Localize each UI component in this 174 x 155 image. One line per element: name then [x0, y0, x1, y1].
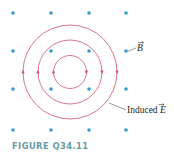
e-label-leader: [109, 103, 126, 110]
induced-e-label: Induced E: [127, 103, 166, 115]
b-symbol: B: [137, 43, 143, 53]
field-dot: [124, 87, 128, 91]
field-dot: [87, 49, 91, 53]
arrow-up-icon: [21, 70, 24, 74]
induced-field-diagram: B Induced E: [0, 0, 174, 155]
e-field-loop-inner: [54, 56, 87, 89]
arrow-down-icon: [100, 71, 103, 75]
e-field-loop-middle: [38, 40, 102, 104]
field-dot: [11, 49, 15, 53]
field-dot: [124, 49, 128, 53]
b-label-leader: [128, 48, 137, 52]
field-dot: [49, 49, 53, 53]
b-field-label: B: [137, 41, 144, 53]
field-dot: [87, 128, 91, 132]
arrow-up-icon: [52, 70, 55, 74]
field-dot: [49, 128, 53, 132]
arrow-down-icon: [85, 71, 88, 75]
field-dot: [11, 128, 15, 132]
field-dot: [11, 87, 15, 91]
arrow-up-icon: [36, 70, 39, 74]
field-dot: [87, 11, 91, 15]
field-dot: [124, 11, 128, 15]
induced-e-text: Induced E: [127, 105, 166, 115]
field-dot: [49, 87, 53, 91]
arrow-down-icon: [115, 71, 118, 75]
figure-caption: FIGURE Q34.11: [12, 141, 88, 151]
field-dot: [49, 11, 53, 15]
field-dot: [124, 128, 128, 132]
field-dot: [11, 11, 15, 15]
magnetic-field-dots: [11, 11, 128, 132]
field-dot: [87, 87, 91, 91]
circulation-arrows: [21, 70, 118, 75]
